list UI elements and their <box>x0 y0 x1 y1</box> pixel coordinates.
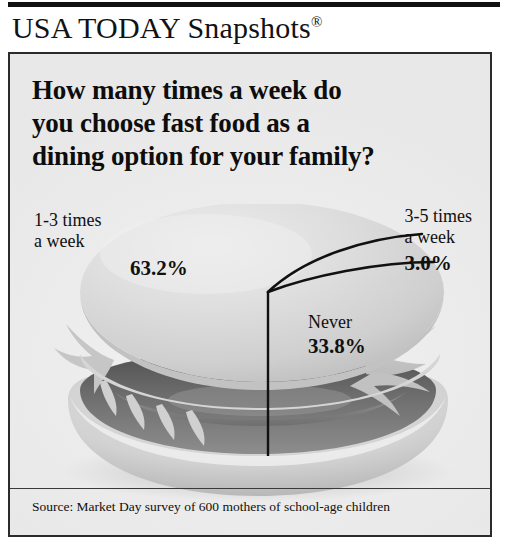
callout-never: Never 33.8% <box>308 312 366 357</box>
callout-3-5-times-line-1: 3-5 times <box>405 206 473 227</box>
callout-3-5-times: 3-5 times a week 3.0% <box>405 206 473 274</box>
infographic-panel: How many times a week do you choose fast… <box>8 52 492 537</box>
snapshot-page: USA TODAY Snapshots® How many times a we… <box>0 0 506 548</box>
registered-trademark-icon: ® <box>311 14 323 30</box>
callout-never-percent: 33.8% <box>308 336 366 357</box>
headline-line-1: How many times a week do <box>32 74 442 107</box>
brand-name: USA TODAY Snapshots <box>12 11 311 44</box>
top-black-rule <box>8 2 500 7</box>
source-divider <box>10 488 490 489</box>
callout-1-3-times-line-1: 1-3 times <box>34 210 188 231</box>
source-note: Source: Market Day survey of 600 mothers… <box>32 498 390 516</box>
callout-1-3-times: 1-3 times a week 63.2% <box>34 210 188 279</box>
brand-title: USA TODAY Snapshots® <box>12 8 432 48</box>
page-title: How many times a week do you choose fast… <box>32 74 442 173</box>
callout-3-5-times-line-2: a week <box>405 227 473 248</box>
callout-never-caption: Never <box>308 312 366 333</box>
callout-3-5-times-percent: 3.0% <box>405 253 473 274</box>
callout-1-3-times-line-2: a week <box>34 231 188 252</box>
headline-line-3: dining option for your family? <box>32 140 442 173</box>
headline-line-2: you choose fast food as a <box>32 107 442 140</box>
callout-1-3-times-percent: 63.2% <box>130 258 188 279</box>
